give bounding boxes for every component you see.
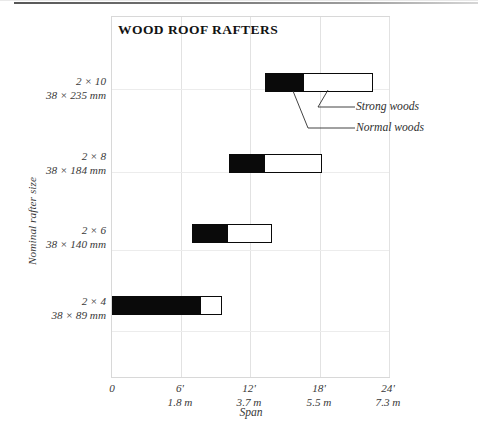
bar-segment-normal-2x10	[265, 73, 305, 92]
xtick-18-metric: 5.5 m	[289, 395, 349, 409]
bar-segment-normal-2x6	[192, 224, 229, 243]
gridline-row-2x6	[112, 250, 389, 251]
xtick-0: 0	[82, 381, 142, 395]
xtick-24-imperial: 24'	[358, 381, 418, 395]
xtick-24-metric: 7.3 m	[358, 395, 418, 409]
bar-segment-strong-2x6	[227, 224, 272, 243]
annotation-strong-woods: Strong woods	[356, 100, 419, 113]
bar-segment-strong-2x4	[200, 296, 222, 315]
plot-area	[111, 16, 390, 378]
gridline-24ft	[389, 17, 390, 377]
bar-2x8	[229, 154, 322, 173]
xtick-6-metric: 1.8 m	[150, 395, 210, 409]
bar-2x4	[112, 296, 222, 315]
bar-segment-normal-2x8	[229, 154, 266, 173]
xtick-12: 12' 3.7 m	[219, 381, 279, 409]
bar-segment-strong-2x8	[264, 154, 322, 173]
ytick-nominal-2x10: 2 × 10	[14, 75, 106, 89]
scan-artifact-line	[14, 2, 478, 4]
xtick-24: 24' 7.3 m	[358, 381, 418, 409]
y-axis-title: Nominal rafter size	[26, 141, 38, 301]
ytick-label-2x10: 2 × 10 38 × 235 mm	[14, 75, 106, 102]
ytick-metric-2x10: 38 × 235 mm	[14, 89, 106, 103]
chart-title: WOOD ROOF RAFTERS	[118, 22, 278, 38]
xtick-18-imperial: 18'	[289, 381, 349, 395]
gridline-row-2x4	[112, 331, 389, 332]
scan-artifact-hairline	[0, 0, 478, 1]
bar-2x6	[192, 224, 272, 243]
x-axis-title: Span	[221, 406, 281, 419]
xtick-6: 6' 1.8 m	[150, 381, 210, 409]
chart-root: WOOD ROOF RAFTERS Strong woods Normal wo…	[0, 0, 478, 438]
annotation-normal-woods: Normal woods	[356, 121, 424, 134]
xtick-0-imperial: 0	[82, 381, 142, 395]
ytick-metric-2x4: 38 × 89 mm	[14, 309, 106, 323]
xtick-18: 18' 5.5 m	[289, 381, 349, 409]
gridline-12ft	[250, 17, 251, 377]
bar-2x10	[265, 73, 373, 92]
gridline-6ft	[181, 17, 182, 377]
xtick-12-imperial: 12'	[219, 381, 279, 395]
bar-segment-normal-2x4	[112, 296, 202, 315]
bar-segment-strong-2x10	[303, 73, 373, 92]
xtick-6-imperial: 6'	[150, 381, 210, 395]
gridline-18ft	[320, 17, 321, 377]
